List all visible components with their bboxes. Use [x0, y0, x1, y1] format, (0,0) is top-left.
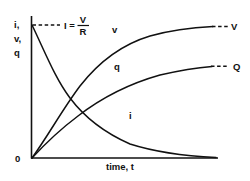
- origin-label: 0: [15, 153, 20, 164]
- charge-asymptote-label: Q: [233, 61, 240, 72]
- initial-current-numerator: V: [80, 14, 87, 25]
- curve-v: [32, 27, 213, 158]
- y-axis-label-q: q: [14, 47, 20, 58]
- x-axis-label: time, t: [106, 161, 135, 172]
- initial-current-label: I =: [64, 20, 75, 31]
- curve-label-v: v: [112, 24, 118, 35]
- initial-current-denominator: R: [80, 26, 87, 37]
- rc-circuit-transient-chart: 0 i, v, q time, t I = V R i v q V Q: [0, 0, 250, 181]
- y-axis-label-v: v,: [14, 33, 21, 44]
- curve-i: [32, 25, 216, 158]
- curve-label-q: q: [114, 61, 120, 72]
- voltage-asymptote-label: V: [231, 21, 238, 32]
- curve-label-i: i: [129, 110, 132, 121]
- y-axis-label-i: i,: [14, 19, 19, 30]
